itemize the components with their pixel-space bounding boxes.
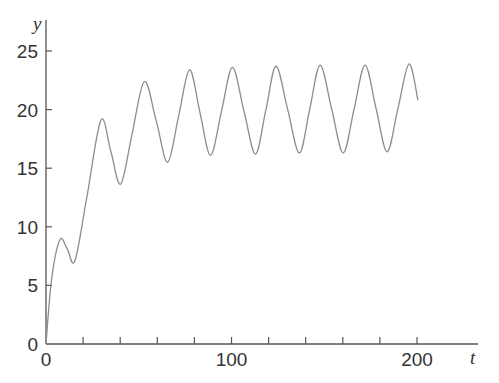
- y-tick-label: 10: [17, 217, 38, 238]
- y-axis-ticks: [46, 51, 52, 285]
- axes: 0510152025 0100200 y t: [17, 13, 478, 370]
- x-tick-label: 200: [401, 349, 433, 370]
- y-tick-label: 5: [27, 275, 38, 296]
- y-tick-label: 20: [17, 100, 38, 121]
- data-series-line: [46, 64, 418, 344]
- x-axis-ticks: [83, 337, 417, 344]
- y-axis-label: y: [31, 13, 42, 34]
- y-tick-label: 25: [17, 41, 38, 62]
- x-axis-label: t: [470, 347, 476, 368]
- x-tick-label: 100: [216, 349, 248, 370]
- x-tick-label: 0: [41, 349, 52, 370]
- line-chart: 0510152025 0100200 y t: [0, 0, 499, 383]
- y-tick-label: 0: [27, 334, 38, 355]
- x-axis-tick-labels: 0100200: [41, 349, 433, 370]
- y-axis-tick-labels: 0510152025: [17, 41, 38, 355]
- y-tick-label: 15: [17, 158, 38, 179]
